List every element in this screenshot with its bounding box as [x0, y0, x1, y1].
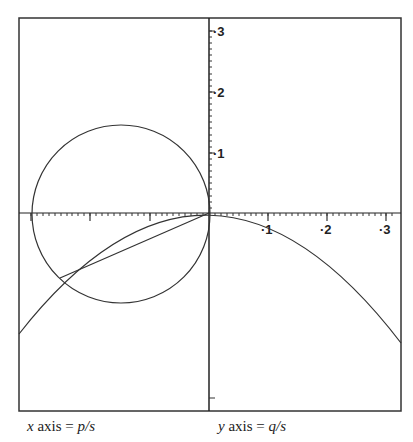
chord-line	[60, 213, 209, 278]
y-axis-text: axis =	[225, 418, 269, 434]
y-tick-label-0.1: ·1	[213, 146, 225, 161]
y-ratio: q/s	[269, 418, 287, 434]
x-axis-text: axis =	[34, 418, 78, 434]
y-axis-caption: y axis = q/s	[218, 418, 286, 435]
y-tick-label-0.3: ·3	[213, 24, 225, 39]
x-tick-label-0.2: ·2	[320, 222, 332, 237]
x-axis-caption: x axis = p/s	[27, 418, 95, 435]
x-ratio: p/s	[78, 418, 96, 434]
y-tick-label-0.2: ·2	[213, 85, 225, 100]
x-axis-ticks	[31, 213, 392, 221]
x-tick-label-0.3: ·3	[379, 222, 391, 237]
plot-canvas: ·1 ·2 ·3 ·1 ·2 ·3	[0, 0, 413, 442]
x-var: x	[27, 418, 34, 434]
y-var: y	[218, 418, 225, 434]
circle-curve	[32, 125, 210, 303]
parabola-curve	[19, 215, 401, 343]
